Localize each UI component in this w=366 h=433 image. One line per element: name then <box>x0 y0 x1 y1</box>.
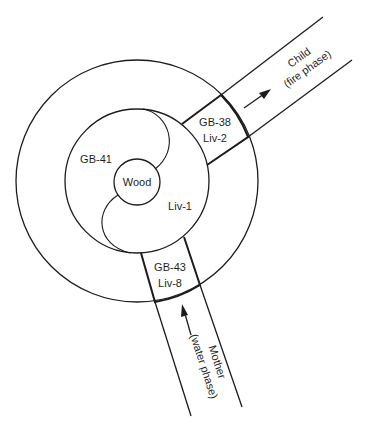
water-gate-label-2: Liv-8 <box>158 277 182 289</box>
five-element-diagram: Wood GB-41 Liv-1 GB-38 Liv-2 GB-43 Liv-8… <box>0 0 366 433</box>
fire-gate-label-2: Liv-2 <box>203 132 227 144</box>
child-arrow-icon <box>244 89 271 108</box>
s-curve-upper <box>143 109 169 169</box>
fire-gate-box <box>182 95 248 165</box>
water-gate-label-1: GB-43 <box>154 261 186 273</box>
gb41-label: GB-41 <box>80 153 112 165</box>
fire-gate-label-1: GB-38 <box>199 116 231 128</box>
mother-channel-left-line <box>155 302 191 416</box>
liv1-label: Liv-1 <box>168 200 192 212</box>
mother-arrow-icon <box>181 304 191 335</box>
s-curve-lower <box>102 195 130 253</box>
center-label: Wood <box>123 176 152 188</box>
